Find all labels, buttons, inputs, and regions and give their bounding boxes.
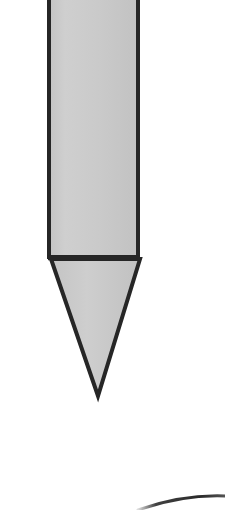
shaft-rectangle <box>49 0 138 257</box>
tip-triangle <box>51 259 140 396</box>
vector-illustration <box>0 0 225 510</box>
illustration-canvas: shaft tip arc <box>0 0 225 510</box>
lower-right-arc <box>138 496 225 510</box>
